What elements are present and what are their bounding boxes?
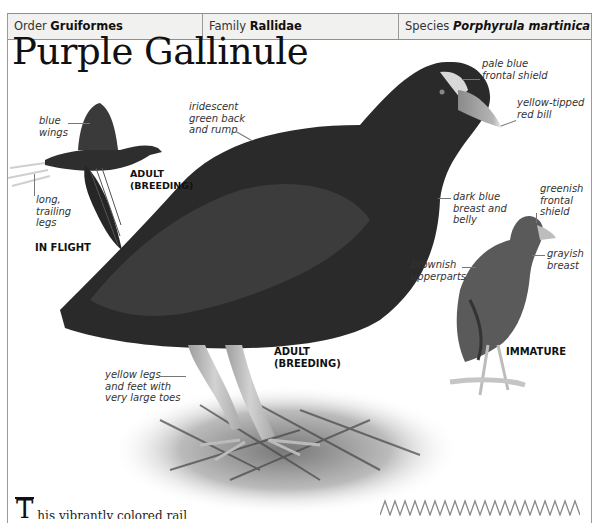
leader-line	[536, 213, 537, 223]
label-yellow-tipped-bill: yellow-tipped red bill	[517, 97, 584, 120]
nest-vegetation	[110, 385, 460, 515]
caption-in-flight: IN FLIGHT	[35, 242, 91, 254]
label-yellow-legs: yellow legs and feet with very large toe…	[105, 369, 180, 404]
label-brownish-upperparts: brownish upperparts	[411, 259, 466, 282]
leader-line	[438, 198, 451, 199]
leader-line	[532, 255, 545, 256]
immature-bird-figure	[450, 216, 556, 395]
leader-line	[160, 376, 186, 377]
caption-immature: IMMATURE	[506, 346, 566, 358]
label-grayish-breast: grayish breast	[547, 248, 584, 271]
body-text: his vibrantly colored rail	[37, 509, 187, 519]
label-blue-wings: blue wings	[39, 115, 68, 138]
caption-flight-adult-breeding: ADULT (BREEDING)	[130, 168, 193, 191]
leader-line	[34, 174, 35, 196]
label-pale-blue-frontal-shield: pale blue frontal shield	[482, 58, 548, 81]
zigzag-decoration	[380, 499, 580, 516]
label-dark-blue-breast: dark blue breast and belly	[453, 191, 507, 226]
label-trailing-legs: long, trailing legs	[36, 194, 71, 229]
caption-adult-breeding: ADULT (BREEDING)	[274, 346, 341, 369]
label-greenish-frontal-shield: greenish frontal shield	[540, 183, 583, 218]
body-text-start: T his vibrantly colored rail	[15, 497, 187, 519]
leader-line	[462, 267, 476, 268]
drop-cap: T	[15, 497, 34, 519]
leader-line	[462, 79, 480, 80]
leader-line	[68, 123, 90, 124]
